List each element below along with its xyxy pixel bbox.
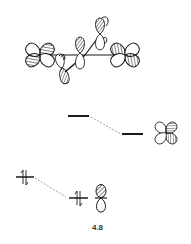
level-lower-right [69,191,88,206]
orbital-interaction-diagram [0,0,191,244]
molecule-orbitals [23,17,141,85]
correlation-line-upper [91,117,121,134]
level-lower-left [16,170,34,185]
figure-label: 4.8 [0,223,191,232]
p-orbital-upper [96,17,109,50]
correlation-line-lower [35,178,66,197]
energy-levels [16,116,179,212]
hybrid-orbital [95,185,107,213]
p-orbital-center [76,37,85,69]
figure-number: 4.8 [92,223,103,232]
d-orbital-level [153,120,179,146]
